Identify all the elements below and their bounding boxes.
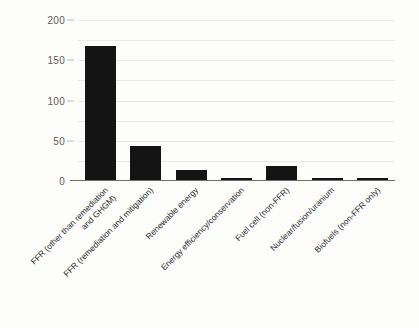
x-axis-labels: FFR (other than remediation and GHGM) FF… xyxy=(78,183,395,323)
plot-area xyxy=(78,20,395,181)
bar-slot-1 xyxy=(123,20,168,180)
y-tick-mark-200 xyxy=(67,20,74,21)
y-axis: 200 150 100 50 0 xyxy=(0,20,74,181)
bar-slot-6 xyxy=(350,20,395,180)
bar-slot-5 xyxy=(304,20,349,180)
y-tick-label-0: 0 xyxy=(59,176,65,187)
y-tick-label-150: 150 xyxy=(47,55,65,66)
y-tick-label-50: 50 xyxy=(53,135,65,146)
x-tick-label-energy-efficiency: Energy efficiency/conservation xyxy=(158,185,246,273)
y-tick-mark-50 xyxy=(67,140,74,141)
bar-slot-0 xyxy=(78,20,123,180)
y-tick-mark-100 xyxy=(67,100,74,101)
bar-slot-3 xyxy=(214,20,259,180)
y-tick-label-100: 100 xyxy=(47,95,65,106)
bar-ffr-other xyxy=(85,46,116,180)
bar-slot-4 xyxy=(259,20,304,180)
bar-fuel-cell xyxy=(266,166,297,180)
y-tick-mark-150 xyxy=(67,60,74,61)
bar-slot-2 xyxy=(169,20,214,180)
x-axis-line xyxy=(70,180,395,182)
bar-series xyxy=(78,20,395,180)
bar-chart: 200 150 100 50 0 FFR xyxy=(0,0,419,328)
bar-renewable-energy xyxy=(176,170,207,180)
bar-ffr-remediation xyxy=(130,146,161,180)
y-tick-label-200: 200 xyxy=(47,15,65,26)
